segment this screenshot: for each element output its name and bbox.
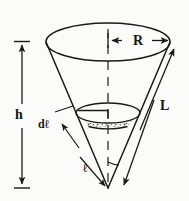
- label-differential-slant: dℓ: [38, 118, 49, 130]
- label-slant-distance: ℓ: [83, 162, 88, 174]
- apex-angle-arc: [108, 162, 119, 165]
- slant-arrow-upper: [140, 49, 174, 130]
- label-height: h: [15, 108, 23, 122]
- label-slant-length: L: [160, 99, 169, 113]
- dl-arrow: [62, 124, 79, 148]
- label-radius: R: [133, 34, 143, 48]
- differential-ring: [72, 103, 144, 140]
- slant-arrow-lower: [124, 100, 154, 185]
- dl-tick: [55, 106, 73, 112]
- inner-radius-line: [78, 111, 108, 120]
- cone-diagram-figure: R L h dℓ ℓ: [0, 0, 189, 201]
- slant-dimension: [124, 49, 174, 185]
